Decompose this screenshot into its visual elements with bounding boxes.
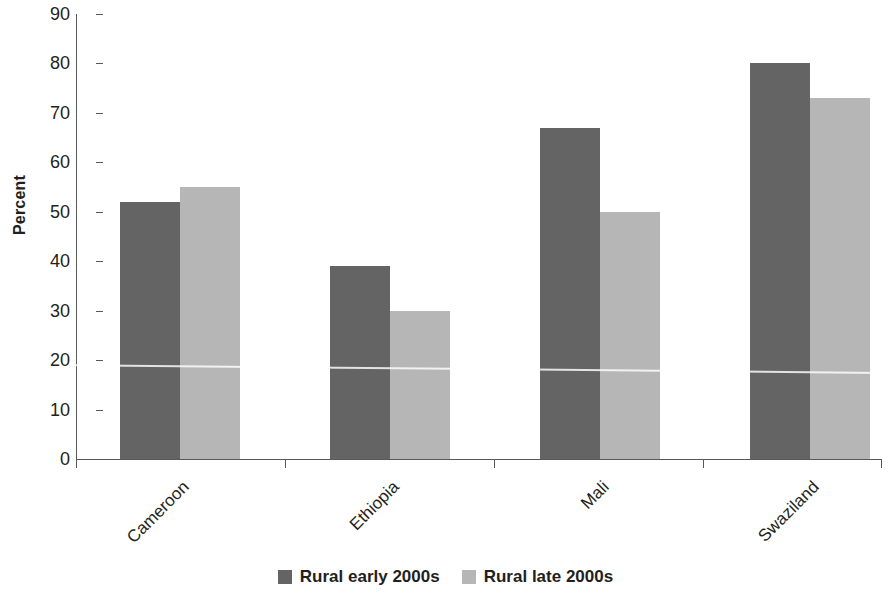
bar: [750, 63, 810, 459]
bar: [810, 98, 870, 459]
bar: [390, 311, 450, 459]
bar: [600, 212, 660, 459]
bar-chart: Percent 0102030405060708090 CameroonEthi…: [0, 0, 891, 599]
legend-label: Rural early 2000s: [300, 568, 440, 585]
legend-item: Rural late 2000s: [462, 568, 613, 585]
bar: [180, 187, 240, 459]
bar: [120, 202, 180, 459]
chart-legend: Rural early 2000sRural late 2000s: [0, 568, 891, 585]
legend-swatch-icon: [278, 570, 292, 584]
legend-item: Rural early 2000s: [278, 568, 440, 585]
legend-swatch-icon: [462, 570, 476, 584]
bar: [330, 266, 390, 459]
bar: [540, 128, 600, 459]
legend-label: Rural late 2000s: [484, 568, 613, 585]
plot-area: [0, 0, 891, 599]
